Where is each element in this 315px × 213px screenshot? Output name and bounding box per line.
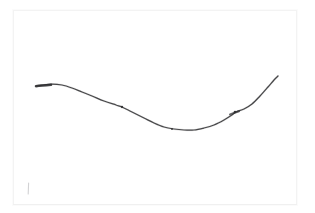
scan-canvas: Scanned hand-drawn curve Single smooth h… — [0, 0, 315, 213]
marker-trough-dot — [171, 128, 173, 130]
curve-line — [36, 76, 278, 130]
scan-grain — [70, 88, 267, 130]
curve-plot — [0, 0, 315, 213]
curve-halo — [36, 76, 278, 130]
lead-start-stroke — [36, 85, 51, 86]
marker-mid-descent-dot — [121, 106, 123, 108]
